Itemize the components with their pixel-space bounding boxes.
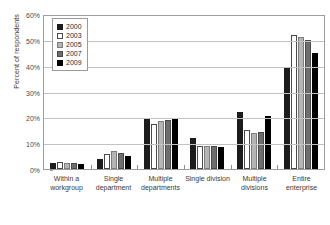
x-axis-label-5: Entire enterprise <box>278 174 325 192</box>
y-axis-tick-labels: 0%10%20%30%40%50%60% <box>10 15 40 170</box>
bar-2000 <box>237 112 243 169</box>
legend-label: 2007 <box>66 49 82 58</box>
bar-2000 <box>50 163 56 169</box>
bar-2000 <box>190 138 196 169</box>
chart-legend: 20002003200520072009 <box>52 18 88 71</box>
bar-2007 <box>118 153 124 169</box>
bar-chart: Percent of respondents 0%10%20%30%40%50%… <box>0 0 330 225</box>
bar-2009 <box>218 147 224 169</box>
bar-2005 <box>298 37 304 169</box>
bar-2005 <box>64 163 70 169</box>
bar-2005 <box>204 146 210 169</box>
bar-2005 <box>111 151 117 169</box>
gridline <box>44 144 324 145</box>
bar-2007 <box>258 132 264 169</box>
bar-2007 <box>211 146 217 169</box>
legend-swatch-icon <box>57 51 63 57</box>
bar-2009 <box>265 116 271 169</box>
legend-swatch-icon <box>57 60 63 66</box>
legend-label: 2003 <box>66 31 82 40</box>
x-axis-label-0: Within a workgroup <box>43 174 90 192</box>
x-axis-label-1: Single department <box>90 174 137 192</box>
bar-2005 <box>251 133 257 169</box>
y-axis-label-0: 0% <box>30 167 40 174</box>
bar-2003 <box>244 130 250 169</box>
gridline <box>44 93 324 94</box>
bar-2009 <box>312 53 318 169</box>
y-axis-label-60: 60% <box>26 12 40 19</box>
bar-2000 <box>97 159 103 169</box>
y-axis-tick <box>50 170 53 171</box>
legend-label: 2000 <box>66 22 82 31</box>
legend-item-2003: 2003 <box>57 31 82 40</box>
bar-2009 <box>125 156 131 169</box>
bar-2003 <box>291 35 297 169</box>
x-axis-tick-labels: Within a workgroupSingle departmentMulti… <box>43 174 325 192</box>
legend-swatch-icon <box>57 24 63 30</box>
bar-2003 <box>57 162 63 169</box>
gridline <box>44 118 324 119</box>
y-axis-label-50: 50% <box>26 37 40 44</box>
bar-2003 <box>151 124 157 169</box>
x-axis-label-2: Multiple departments <box>137 174 184 192</box>
y-axis-label-40: 40% <box>26 63 40 70</box>
legend-label: 2009 <box>66 58 82 67</box>
y-axis-label-10: 10% <box>26 141 40 148</box>
y-axis-label-30: 30% <box>26 89 40 96</box>
bar-2003 <box>104 154 110 170</box>
legend-item-2009: 2009 <box>57 58 82 67</box>
y-axis-label-20: 20% <box>26 115 40 122</box>
legend-item-2005: 2005 <box>57 40 82 49</box>
x-axis-label-4: Multiple divisions <box>231 174 278 192</box>
bar-2007 <box>71 163 77 169</box>
legend-swatch-icon <box>57 33 63 39</box>
bar-2007 <box>305 40 311 169</box>
bar-2003 <box>197 146 203 169</box>
legend-item-2000: 2000 <box>57 22 82 31</box>
legend-label: 2005 <box>66 40 82 49</box>
legend-item-2007: 2007 <box>57 49 82 58</box>
x-axis-label-3: Single division <box>184 174 231 192</box>
bar-2009 <box>78 164 84 169</box>
legend-swatch-icon <box>57 42 63 48</box>
